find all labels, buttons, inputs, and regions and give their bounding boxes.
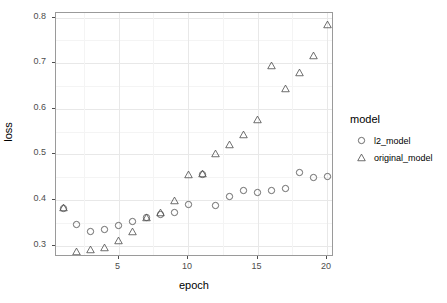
data-point [59,204,68,213]
x-axis-tick-label: 5 [103,262,133,271]
circle-marker-icon [354,133,369,148]
data-point [72,247,81,256]
y-axis-tick-label: 0.7 [8,57,46,66]
y-axis-tick-label: 0.6 [8,103,46,112]
plot-panel [55,12,333,256]
gridline-horizontal [56,63,332,64]
legend: model l2_modeloriginal_model [350,113,433,166]
data-point [100,225,109,234]
data-point [142,213,151,222]
data-point [59,203,68,212]
legend-item-label: l2_model [374,136,411,146]
y-axis-tick-label: 0.3 [8,240,46,249]
gridline-horizontal [56,18,332,19]
y-axis-tick-label: 0.8 [8,12,46,21]
gridline-vertical-minor [223,13,224,255]
gridline-horizontal [56,109,332,110]
x-axis-tick-label: 10 [172,262,202,271]
x-axis-tick-label: 15 [242,262,272,271]
data-point [267,186,276,195]
gridline-vertical [258,13,259,255]
legend-title: model [350,113,433,125]
data-point [156,208,165,217]
data-point [281,184,290,193]
gridline-horizontal-minor [56,40,332,41]
x-axis-tick-mark [326,256,327,259]
gridline-vertical [188,13,189,255]
x-axis-tick-mark [187,256,188,259]
gridline-vertical-minor [153,13,154,255]
data-point [211,201,220,210]
legend-items: l2_modeloriginal_model [350,132,433,166]
gridline-horizontal-minor [56,177,332,178]
data-point [309,51,318,60]
data-point [239,186,248,195]
x-axis-tick-mark [257,256,258,259]
x-axis-title: epoch [55,279,333,291]
legend-item-label: original_model [374,153,433,163]
x-axis-tick-mark [118,256,119,259]
triangle-marker-icon [354,150,369,165]
gridline-horizontal-minor [56,223,332,224]
scatter-plot: loss 0.30.40.50.60.70.8 5101520 epoch mo… [0,0,447,303]
gridline-vertical [119,13,120,255]
gridline-horizontal [56,246,332,247]
gridline-horizontal [56,154,332,155]
data-point [156,210,165,219]
data-point [142,213,151,222]
y-axis-tick-label: 0.4 [8,194,46,203]
y-axis-tick-label: 0.5 [8,148,46,157]
data-point [86,227,95,236]
legend-item[interactable]: original_model [354,149,433,166]
data-point [225,140,234,149]
gridline-vertical-minor [292,13,293,255]
legend-item[interactable]: l2_model [354,132,433,149]
data-point [72,220,81,229]
gridline-vertical [327,13,328,255]
data-point [170,208,179,217]
gridline-horizontal-minor [56,86,332,87]
data-point [295,68,304,77]
data-point [295,168,304,177]
gridline-horizontal-minor [56,132,332,133]
gridline-horizontal [56,200,332,201]
x-axis-tick-label: 20 [311,262,341,271]
gridline-vertical-minor [84,13,85,255]
data-point [128,227,137,236]
